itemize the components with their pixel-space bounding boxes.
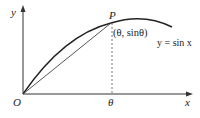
theta-tick-label: θ bbox=[108, 96, 114, 108]
curve-label: y = sin x bbox=[157, 37, 192, 48]
sine-curve bbox=[23, 19, 172, 94]
y-axis-label: y bbox=[10, 6, 16, 18]
origin-label: O bbox=[13, 96, 21, 108]
y-axis-arrow-icon bbox=[21, 5, 26, 12]
point-coords-label: (θ, sinθ) bbox=[113, 27, 148, 39]
chord-op bbox=[23, 23, 111, 94]
sine-diagram: y x O θ P (θ, sinθ) y = sin x bbox=[0, 0, 200, 118]
x-axis-label: x bbox=[184, 96, 190, 108]
point-p-label: P bbox=[108, 9, 116, 21]
